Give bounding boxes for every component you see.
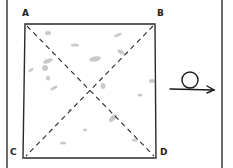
diagonal-b-c: [26, 26, 153, 156]
folding-diagram: [0, 0, 233, 168]
paper-texture: [28, 31, 155, 145]
corner-label-a: A: [22, 9, 29, 18]
corner-label-d: D: [160, 148, 167, 157]
diagonal-a-d: [27, 26, 154, 156]
corner-label-b: B: [157, 9, 164, 18]
corner-label-c: C: [10, 148, 17, 157]
loop-arrow-icon: [170, 72, 214, 93]
